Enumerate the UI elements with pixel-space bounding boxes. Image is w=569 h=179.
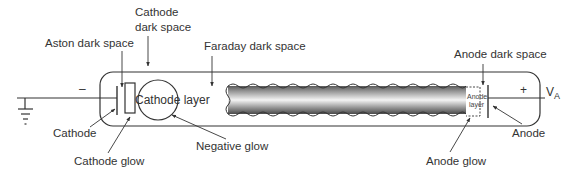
cathode-layer-label: Cathode layer <box>135 93 210 107</box>
negative-glow-label: Negative glow <box>196 140 269 152</box>
negative-glow-pointer <box>172 115 226 139</box>
faraday-dark-space-label: Faraday dark space <box>204 40 306 52</box>
positive-column <box>226 84 466 116</box>
cathode-glow-region <box>125 83 135 113</box>
voltage-label: VA <box>546 85 560 101</box>
anode-pointer <box>493 106 522 124</box>
cathode-glow-pointer <box>108 117 130 153</box>
anode-layer-label-line2: layer <box>469 101 485 109</box>
voltage-symbol: V <box>546 85 554 99</box>
cathode-glow-label: Cathode glow <box>74 155 145 167</box>
cathode-label: Cathode <box>53 127 96 139</box>
aston-dark-space-label: Aston dark space <box>45 37 134 49</box>
cathode-dark-space-label-line2: dark space <box>135 21 191 33</box>
anode-glow-label: Anode glow <box>426 155 487 167</box>
anode-layer-label-line1: Anode <box>467 93 487 100</box>
ground-icon <box>18 98 33 124</box>
anode-label: Anode <box>512 127 545 139</box>
plus-sign: + <box>520 83 527 97</box>
cathode-dark-space-label-line1: Cathode <box>135 6 178 18</box>
minus-sign: – <box>79 82 86 96</box>
anode-glow-pointer <box>450 118 470 152</box>
glow-discharge-diagram: – Cathode layer Anode layer + VA Aston d… <box>0 0 569 179</box>
cathode-pointer <box>90 109 115 127</box>
voltage-subscript: A <box>554 91 560 101</box>
anode-dark-space-label: Anode dark space <box>454 48 547 60</box>
